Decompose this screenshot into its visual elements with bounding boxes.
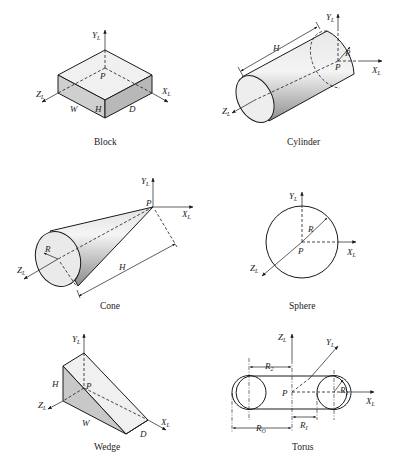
svg-text:YL: YL (289, 191, 298, 202)
cylinder-radius-label: R (344, 48, 351, 58)
cylinder-height-label: H (272, 43, 280, 53)
svg-text:YL: YL (92, 30, 101, 41)
cone-caption: Cone (100, 301, 120, 311)
svg-text:ZL: ZL (278, 332, 287, 343)
svg-text:ZL: ZL (17, 265, 26, 276)
sphere-caption: Sphere (289, 301, 315, 311)
block-origin-label: P (99, 71, 106, 81)
svg-text:XL: XL (161, 86, 172, 97)
cylinder-figure: H R P YL XL ZL Cylinder (222, 12, 382, 147)
svg-text:RI: RI (299, 420, 309, 431)
svg-text:RO: RO (255, 423, 267, 434)
wedge-caption: Wedge (94, 442, 120, 452)
wedge-figure: YL ZL XL P H W D Wedge (38, 334, 171, 452)
cone-radius-label: R (44, 244, 51, 254)
wedge-origin-label: P (85, 381, 92, 391)
primitive-shapes-diagram: YL ZL XL P W H D Block H R P YL XL (0, 0, 396, 461)
svg-text:ZL: ZL (38, 400, 47, 411)
cone-height-label: H (118, 262, 126, 272)
svg-text:ZL: ZL (36, 89, 45, 100)
block-depth-label: D (128, 104, 136, 114)
svg-text:YL: YL (326, 12, 335, 23)
block-caption: Block (94, 137, 117, 147)
cylinder-origin-label: P (334, 62, 341, 72)
svg-text:R1: R1 (339, 385, 349, 396)
block-height-label: H (94, 104, 102, 114)
svg-text:ZL: ZL (250, 263, 259, 274)
block-width-label: W (70, 104, 79, 114)
wedge-width-label: W (82, 418, 91, 428)
svg-text:XL: XL (181, 209, 192, 220)
svg-text:YL: YL (141, 176, 150, 187)
svg-text:YL: YL (326, 337, 335, 348)
svg-text:XL: XL (371, 65, 382, 76)
svg-text:XL: XL (365, 396, 376, 407)
svg-text:XL: XL (160, 417, 171, 428)
svg-text:YL: YL (72, 334, 81, 345)
torus-figure: R2 R1 RI RO P ZL YL XL Torus (232, 332, 376, 452)
svg-text:ZL: ZL (222, 106, 231, 117)
sphere-origin-label: P (297, 246, 304, 256)
torus-origin-label: P (281, 388, 288, 398)
svg-text:XL: XL (346, 247, 357, 258)
cone-figure: H R P YL XL ZL Cone (17, 176, 193, 311)
block-z-axis (42, 93, 58, 102)
sphere-radius-label: R (307, 224, 314, 234)
cone-origin-label: P (145, 198, 152, 208)
wedge-z-axis (48, 401, 63, 409)
sphere-figure: R P YL XL ZL Sphere (250, 191, 357, 311)
cylinder-caption: Cylinder (287, 137, 321, 147)
wedge-height-label: H (51, 379, 59, 389)
svg-text:R2: R2 (264, 361, 274, 372)
block-figure: YL ZL XL P W H D Block (36, 30, 172, 147)
torus-caption: Torus (292, 442, 314, 452)
torus-outline (236, 376, 347, 409)
wedge-depth-label: D (139, 429, 147, 439)
